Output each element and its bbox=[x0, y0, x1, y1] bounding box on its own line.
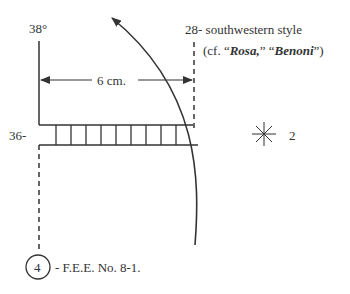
label-38-degrees: 38° bbox=[29, 21, 47, 36]
label-36: 36- bbox=[9, 128, 26, 143]
label-cf-references: (cf. “Rosa,” “Benoni”) bbox=[203, 43, 324, 58]
label-6cm: 6 cm. bbox=[97, 73, 126, 88]
label-southwestern-style: 28- southwestern style bbox=[185, 22, 302, 37]
diagram-canvas: 38° 36- 6 cm. 28- southwestern style (cf… bbox=[0, 0, 350, 294]
ladder-rungs bbox=[56, 125, 176, 145]
label-star-number: 2 bbox=[289, 128, 296, 143]
curved-arrow bbox=[112, 18, 197, 245]
asterisk-icon bbox=[252, 122, 276, 146]
label-fee-number: - F.E.E. No. 8-1. bbox=[55, 260, 141, 275]
label-circle-number: 4 bbox=[34, 260, 41, 275]
